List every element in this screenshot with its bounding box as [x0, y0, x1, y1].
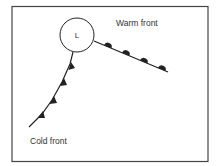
cold-front-label: Cold front	[30, 136, 67, 146]
warm-front-semicircle-icon	[140, 58, 148, 64]
low-pressure-label: L	[75, 31, 80, 40]
cold-front-line	[29, 52, 73, 127]
weather-front-diagram: L Warm front Cold front	[0, 0, 220, 166]
cold-front-triangle-icon	[60, 78, 67, 86]
warm-front: Warm front	[94, 18, 168, 72]
warm-front-label: Warm front	[116, 18, 158, 28]
low-pressure-center: L	[60, 18, 94, 52]
warm-front-semicircle-icon	[104, 43, 112, 49]
cold-front: Cold front	[29, 52, 75, 146]
